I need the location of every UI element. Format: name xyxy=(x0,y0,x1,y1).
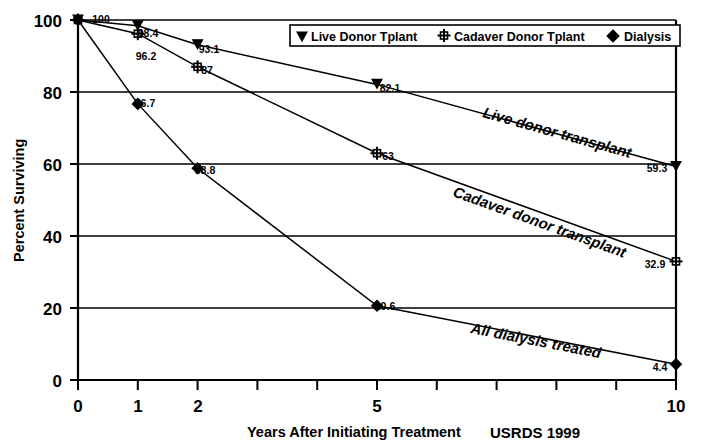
x-tick-label-10: 10 xyxy=(667,397,686,416)
point-label-dialysis-1: 76.7 xyxy=(135,97,156,109)
y-tick-labels: 100 80 60 40 20 0 xyxy=(34,12,62,391)
crosshair-square-icon xyxy=(670,255,683,268)
point-label-live-0: 100 xyxy=(92,13,110,25)
survival-chart: 100 80 60 40 20 0 0 1 2 5 10 Percent Sur… xyxy=(0,0,704,443)
point-label-cadaver-5: 63 xyxy=(382,150,394,162)
series-line-dialysis xyxy=(78,20,676,364)
point-label-live-5: 82.1 xyxy=(380,82,401,94)
x-tick-label-2: 2 xyxy=(193,397,202,416)
point-label-dialysis-10: 4.4 xyxy=(653,361,668,373)
series-dialysis xyxy=(73,15,682,370)
point-label-live-1: 98.4 xyxy=(138,27,159,39)
y-tick-label-40: 40 xyxy=(43,228,62,247)
legend-item-cadaver-donor[interactable]: Cadaver Donor Tplant xyxy=(438,29,586,44)
y-axis-title: Percent Surviving xyxy=(11,139,27,262)
x-axis-title: Years After Initiating Treatment xyxy=(247,424,461,440)
x-tick-label-0: 0 xyxy=(73,397,82,416)
annotation-dialysis: All dialysis treated xyxy=(468,319,603,361)
legend-item-live-donor[interactable]: Live Donor Tplant xyxy=(297,30,418,44)
y-tick-label-20: 20 xyxy=(43,300,62,319)
point-label-dialysis-5: 20.6 xyxy=(375,300,396,312)
y-tick-label-80: 80 xyxy=(43,84,62,103)
point-label-live-10: 59.3 xyxy=(647,162,668,174)
x-tick-labels: 0 1 2 5 10 xyxy=(73,397,685,416)
source-label: USRDS 1999 xyxy=(490,424,580,441)
annotation-cadaver-donor: Cadaver donor transplant xyxy=(451,183,629,261)
diamond-icon xyxy=(671,359,682,370)
gridlines xyxy=(78,20,676,308)
y-tick-marks xyxy=(70,20,78,380)
axes xyxy=(78,20,676,380)
point-label-cadaver-1: 96.2 xyxy=(136,50,157,62)
x-tick-marks xyxy=(78,380,676,390)
y-tick-label-100: 100 xyxy=(34,12,62,31)
point-label-cadaver-10: 32.9 xyxy=(645,258,666,270)
legend-label-dialysis: Dialysis xyxy=(624,30,671,44)
x-tick-label-1: 1 xyxy=(133,397,142,416)
y-tick-label-0: 0 xyxy=(53,372,62,391)
data-point-labels: 100 98.4 93.1 82.1 59.3 96.2 87 63 32.9 … xyxy=(92,13,667,373)
curve-annotations: Live donor transplant Cadaver donor tran… xyxy=(451,104,634,362)
x-tick-label-5: 5 xyxy=(372,397,381,416)
point-label-live-2: 93.1 xyxy=(199,43,220,55)
point-label-dialysis-2: 58.8 xyxy=(195,164,216,176)
chart-canvas: 100 80 60 40 20 0 0 1 2 5 10 Percent Sur… xyxy=(0,0,704,443)
legend-label-cadaver-donor: Cadaver Donor Tplant xyxy=(454,30,585,44)
y-tick-label-60: 60 xyxy=(43,156,62,175)
point-label-cadaver-2: 87 xyxy=(201,64,213,76)
legend-label-live-donor: Live Donor Tplant xyxy=(311,30,418,44)
chart-legend: Live Donor Tplant Cadaver Donor Tplant D… xyxy=(290,25,680,46)
annotation-live-donor: Live donor transplant xyxy=(481,104,634,162)
